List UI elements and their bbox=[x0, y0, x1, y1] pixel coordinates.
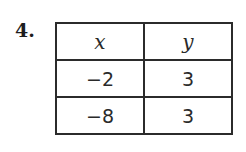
cell-y: 3 bbox=[144, 97, 232, 134]
header-x: x bbox=[56, 23, 144, 60]
cell-x: −2 bbox=[56, 60, 144, 97]
cell-y: 3 bbox=[144, 60, 232, 97]
header-y: y bbox=[144, 23, 232, 60]
xy-value-table: x y −2 3 −8 3 bbox=[55, 22, 233, 135]
problem-number: 4. bbox=[15, 20, 35, 40]
table-header-row: x y bbox=[56, 23, 232, 60]
table-row: −8 3 bbox=[56, 97, 232, 134]
table-row: −2 3 bbox=[56, 60, 232, 97]
cell-x: −8 bbox=[56, 97, 144, 134]
